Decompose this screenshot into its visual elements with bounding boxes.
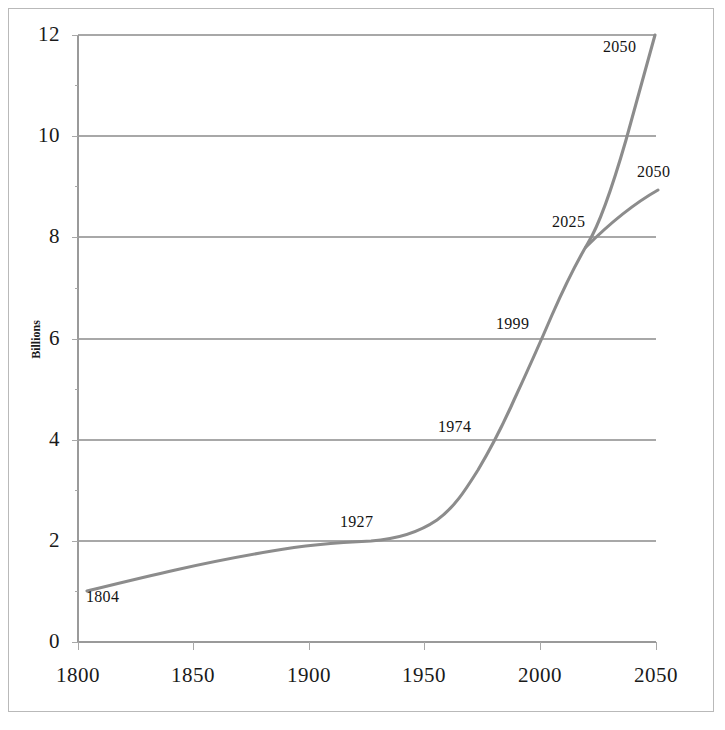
data-label-2050-low: 2050 [637, 163, 670, 181]
x-tick-label-2000: 2000 [495, 663, 585, 688]
chart-plot-area [0, 0, 725, 730]
x-tick-label-2050: 2050 [611, 663, 701, 688]
x-tick-label-1950: 1950 [379, 663, 469, 688]
data-label-2025: 2025 [552, 213, 585, 231]
series-line-high-projection [87, 35, 655, 591]
y-tick-label-12: 12 [18, 22, 60, 47]
y-tick-label-4: 4 [18, 427, 60, 452]
data-label-1804: 1804 [86, 588, 119, 606]
data-label-1974: 1974 [438, 418, 471, 436]
data-label-2050-high: 2050 [603, 38, 636, 56]
y-tick-label-10: 10 [18, 123, 60, 148]
y-tick-label-8: 8 [18, 224, 60, 249]
x-tick-label-1900: 1900 [264, 663, 354, 688]
x-tick-label-1800: 1800 [33, 663, 123, 688]
x-tick-label-1850: 1850 [148, 663, 238, 688]
x-axis-ticks [78, 642, 656, 650]
chart-container: Billions 12 10 8 6 4 2 0 1800 1850 1900 … [0, 0, 725, 730]
y-tick-label-6: 6 [18, 326, 60, 351]
series-line-low-projection [586, 190, 658, 247]
data-label-1927: 1927 [340, 513, 373, 531]
y-tick-label-2: 2 [18, 528, 60, 553]
data-label-1999: 1999 [496, 315, 529, 333]
gridlines [78, 35, 656, 541]
y-tick-label-0: 0 [18, 629, 60, 654]
y-axis-ticks [72, 35, 78, 642]
